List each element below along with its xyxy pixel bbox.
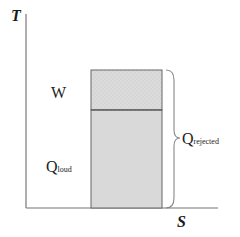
q-loud-region (91, 110, 162, 208)
q-rejected-sub: rejected (194, 137, 219, 146)
ts-diagram-canvas (0, 0, 240, 237)
work-region (91, 70, 162, 110)
q-rejected-brace (166, 70, 180, 208)
q-loud-label: Qloud (46, 159, 72, 175)
work-label: W (51, 85, 66, 101)
q-loud-main: Q (46, 158, 58, 175)
q-rejected-label: Qrejected (182, 131, 219, 147)
q-rejected-main: Q (182, 130, 194, 147)
q-loud-sub: loud (58, 165, 72, 174)
s-axis-label: S (177, 214, 186, 230)
t-axis-label: T (11, 8, 21, 24)
